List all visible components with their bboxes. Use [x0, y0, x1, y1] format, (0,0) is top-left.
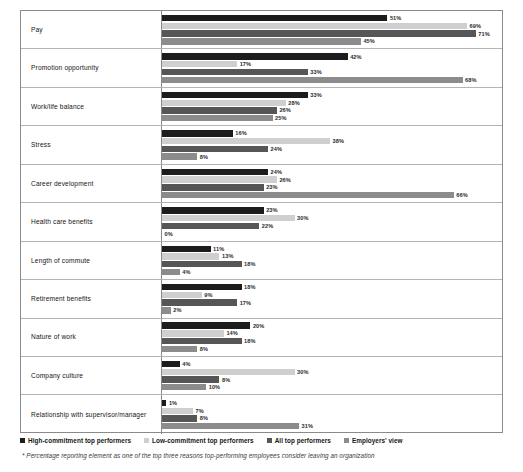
chart-category-row: Retirement benefits18%9%17%2%	[21, 280, 502, 318]
category-label-cell: Nature of work	[21, 319, 162, 356]
bar-line: 13%	[162, 253, 502, 259]
chart-category-row: Relationship with supervisor/manager1%7%…	[21, 395, 502, 433]
bar-rect	[162, 215, 295, 221]
category-label-cell: Company culture	[21, 357, 162, 394]
bar-value-label: 18%	[244, 284, 256, 290]
category-label: Health care benefits	[31, 218, 93, 226]
bar-value-label: 13%	[222, 253, 234, 259]
bar-rect	[162, 338, 242, 344]
category-label-cell: Career development	[21, 165, 162, 202]
bar-line: 71%	[162, 30, 502, 36]
bar-line: 14%	[162, 330, 502, 336]
bar-line: 42%	[162, 53, 502, 59]
bar-rect	[162, 253, 219, 259]
bar-line: 26%	[162, 176, 502, 182]
bar-rect	[162, 223, 259, 229]
bar-value-label: 4%	[182, 361, 190, 367]
bar-value-label: 1%	[169, 400, 177, 406]
category-bars-cell: 42%17%33%68%	[162, 49, 502, 86]
bar-line: 30%	[162, 215, 502, 221]
chart-legend: High-commitment top performersLow-commit…	[20, 437, 503, 444]
chart-category-row: Stress16%38%24%8%	[21, 126, 502, 164]
legend-swatch-icon	[20, 438, 25, 443]
bar-rect	[162, 153, 197, 159]
bar-rect	[162, 130, 233, 136]
bar-rect	[162, 30, 476, 36]
bar-line: 8%	[162, 415, 502, 421]
bar-rect	[162, 92, 308, 98]
bar-rect	[162, 261, 242, 267]
bar-line: 38%	[162, 138, 502, 144]
bar-value-label: 8%	[200, 154, 208, 160]
category-bars-cell: 33%28%26%25%	[162, 88, 502, 125]
category-bars-cell: 23%30%22%0%	[162, 203, 502, 240]
bar-line: 18%	[162, 284, 502, 290]
bar-rect	[162, 322, 250, 328]
category-label: Pay	[31, 26, 43, 34]
category-label: Length of commute	[31, 257, 90, 265]
bar-value-label: 8%	[222, 377, 230, 383]
bar-value-label: 24%	[271, 169, 283, 175]
bar-rect	[162, 307, 171, 313]
bar-rect	[162, 77, 463, 83]
bar-rect	[162, 384, 206, 390]
bar-value-label: 28%	[288, 100, 300, 106]
bar-value-label: 7%	[195, 408, 203, 414]
category-label-cell: Relationship with supervisor/manager	[21, 395, 162, 433]
bar-rect	[162, 408, 193, 414]
bar-value-label: 23%	[266, 184, 278, 190]
bar-line: 31%	[162, 423, 502, 429]
bar-line: 7%	[162, 408, 502, 414]
bar-value-label: 14%	[226, 330, 238, 336]
category-label: Relationship with supervisor/manager	[31, 411, 146, 419]
category-label-cell: Stress	[21, 126, 162, 163]
bar-line: 25%	[162, 115, 502, 121]
chart-category-row: Pay51%69%71%45%	[21, 11, 502, 49]
bar-line: 51%	[162, 15, 502, 21]
bar-line: 0%	[162, 230, 502, 236]
bar-rect	[162, 369, 295, 375]
bar-value-label: 68%	[465, 77, 477, 83]
bar-rect	[162, 423, 299, 429]
category-bars-cell: 18%9%17%2%	[162, 280, 502, 317]
bar-line: 30%	[162, 369, 502, 375]
bar-line: 23%	[162, 184, 502, 190]
bar-rect	[162, 146, 268, 152]
bar-value-label: 33%	[310, 92, 322, 98]
bar-rect	[162, 38, 361, 44]
bar-rect	[162, 15, 387, 21]
bar-value-label: 2%	[173, 307, 181, 313]
bar-value-label: 30%	[297, 215, 309, 221]
bar-line: 24%	[162, 146, 502, 152]
bar-value-label: 25%	[275, 115, 287, 121]
bar-line: 33%	[162, 92, 502, 98]
bar-line: 33%	[162, 69, 502, 75]
category-label-cell: Retirement benefits	[21, 280, 162, 317]
chart-category-row: Length of commute11%13%18%4%	[21, 242, 502, 280]
bar-value-label: 8%	[200, 415, 208, 421]
legend-item: High-commitment top performers	[20, 437, 131, 444]
bar-rect	[162, 415, 197, 421]
bar-rect	[162, 138, 330, 144]
bar-value-label: 71%	[478, 31, 490, 37]
bar-value-label: 51%	[390, 15, 402, 21]
chart-category-row: Health care benefits23%30%22%0%	[21, 203, 502, 241]
category-bars-cell: 4%30%8%10%	[162, 357, 502, 394]
bar-value-label: 4%	[182, 269, 190, 275]
bar-line: 24%	[162, 169, 502, 175]
legend-label: Low-commitment top performers	[152, 437, 254, 444]
bar-line: 9%	[162, 292, 502, 298]
bar-line: 23%	[162, 207, 502, 213]
bar-rect	[162, 61, 237, 67]
bar-line: 18%	[162, 338, 502, 344]
category-label: Nature of work	[31, 333, 76, 341]
category-bars-cell: 24%26%23%66%	[162, 165, 502, 202]
chart-category-row: Work/life balance33%28%26%25%	[21, 88, 502, 126]
bar-line: 28%	[162, 100, 502, 106]
bar-rect	[162, 115, 273, 121]
category-label: Promotion opportunity	[31, 64, 99, 72]
bar-line: 2%	[162, 307, 502, 313]
bar-value-label: 24%	[271, 146, 283, 152]
bar-value-label: 18%	[244, 338, 256, 344]
bar-value-label: 17%	[240, 61, 252, 67]
